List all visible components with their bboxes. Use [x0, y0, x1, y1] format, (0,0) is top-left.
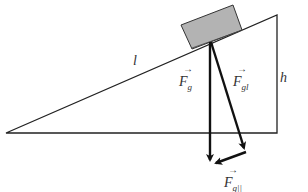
vector-arrow-icon: → [237, 63, 247, 74]
diagram-graphics [0, 0, 308, 192]
parallel-force-label: → Fg|| [224, 173, 242, 191]
vector-arrow-icon: → [183, 63, 193, 74]
parallel-force-arrow [216, 152, 246, 163]
inclined-plane-diagram: l h → Fg → Fgl → Fg|| [0, 0, 308, 192]
vector-arrow-icon: → [228, 164, 238, 175]
length-label: l [133, 53, 137, 69]
height-label: h [280, 70, 287, 86]
perpendicular-force-label: → Fgl [233, 72, 249, 90]
gravity-force-label: → Fg [179, 72, 192, 90]
perpendicular-force-arrow [211, 42, 244, 148]
